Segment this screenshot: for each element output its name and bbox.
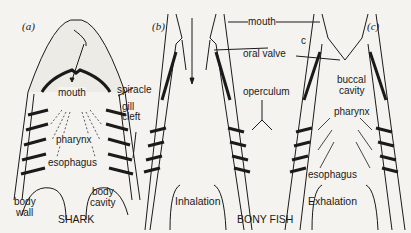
operculum-label: operculum xyxy=(243,86,290,97)
body-wall-label-2: wall xyxy=(16,207,33,218)
body-wall-label-1: body xyxy=(14,196,36,207)
shark-esophagus-label: esophagus xyxy=(48,157,97,168)
panel-label-c: (c) xyxy=(367,20,379,32)
spiracle-label: spiracle xyxy=(117,84,151,95)
shark-mouth-label: mouth xyxy=(58,87,86,98)
panel-label-b: (b) xyxy=(152,20,165,32)
bony-fish-caption: BONY FISH xyxy=(237,213,293,225)
buccal-cavity-label-1: buccal xyxy=(337,74,366,85)
oral-valve-label: oral valve xyxy=(243,48,286,59)
shark-snout-outline xyxy=(28,20,125,92)
shark-caption: SHARK xyxy=(58,213,94,225)
fish-mouth-label: mouth xyxy=(248,16,276,27)
exhalation-caption: Exhalation xyxy=(308,195,357,207)
buccal-cavity-label-2: cavity xyxy=(339,85,365,96)
shark-pharynx-label: pharynx xyxy=(56,134,92,145)
c-marker-label: c xyxy=(301,35,306,46)
body-cavity-label-1: body xyxy=(92,186,114,197)
gill-cleft-label-2: cleft xyxy=(122,111,140,122)
fish-pharynx-label: pharynx xyxy=(334,106,370,117)
panel-label-a: (a) xyxy=(22,20,35,32)
body-cavity-label-2: cavity xyxy=(90,197,116,208)
fish-esophagus-label: esophagus xyxy=(308,169,357,180)
inhalation-caption: Inhalation xyxy=(175,195,221,207)
